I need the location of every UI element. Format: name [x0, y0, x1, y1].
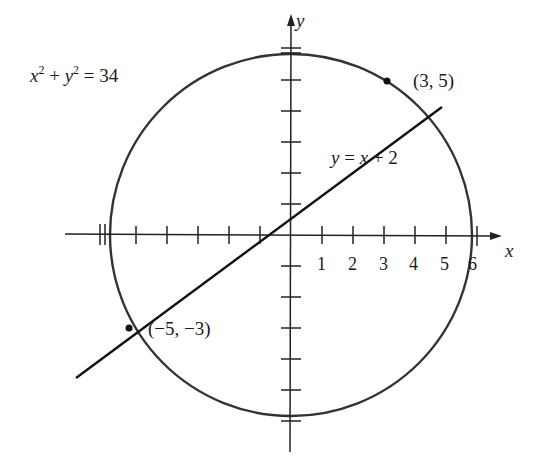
- x-arrow-icon: [490, 232, 502, 240]
- x-tick-label: 3: [379, 254, 388, 274]
- x-axis: [65, 224, 502, 246]
- x-tick-label: 2: [348, 254, 357, 274]
- point-neg5-neg3-marker: [126, 325, 133, 332]
- circle-equation-label: x2 + y2 = 34: [29, 63, 119, 86]
- x-tick-label: 4: [409, 254, 418, 274]
- point-3-5-marker: [384, 78, 391, 85]
- point-neg5-neg3-label: (−5, −3): [148, 318, 211, 340]
- x-tick-label: 1: [317, 254, 326, 274]
- x-tick-label: 6: [468, 254, 477, 274]
- line-equation-label: y = x + 2: [329, 147, 398, 168]
- y-arrow-icon: [287, 14, 295, 26]
- chart-canvas: y x 1 2 3 4 5 6 x2 + y2 = 34 y = x + 2 (…: [0, 0, 541, 461]
- y-axis-label: y: [294, 10, 305, 31]
- x-tick-label: 5: [440, 254, 449, 274]
- y-axis: [281, 14, 301, 452]
- x-axis-label: x: [504, 240, 514, 261]
- point-3-5-label: (3, 5): [413, 70, 454, 92]
